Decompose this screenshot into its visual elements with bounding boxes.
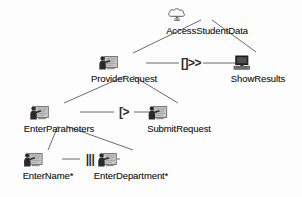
task-node-provide-request[interactable]: ProvideRequest: [91, 55, 157, 84]
task-node-enter-name[interactable]: EnterName*: [23, 152, 74, 181]
task-node-label: ShowResults: [231, 73, 285, 84]
user-interaction-icon: [29, 105, 51, 122]
temporal-operator-interleaving[interactable]: |||: [84, 153, 97, 165]
task-node-enter-department[interactable]: EnterDepartment*: [94, 152, 168, 181]
task-node-label: EnterName*: [23, 170, 74, 181]
task-node-submit-request[interactable]: SubmitRequest: [147, 105, 211, 134]
task-node-label: EnterParameters: [24, 123, 94, 134]
task-node-label: AccessStudentData: [166, 25, 248, 36]
user-interaction-icon: [23, 152, 45, 169]
cloud-icon: [166, 7, 188, 24]
user-interaction-icon: [147, 105, 169, 122]
temporal-operator-enabling[interactable]: []>>: [179, 57, 203, 69]
task-node-label: SubmitRequest: [147, 123, 211, 134]
user-interaction-icon: [98, 55, 120, 72]
task-node-access-student-data[interactable]: AccessStudentData: [166, 7, 248, 36]
task-node-label: EnterDepartment*: [94, 170, 168, 181]
ctt-diagram-canvas: AccessStudentDataProvideRequestShowResul…: [0, 0, 302, 197]
user-interaction-icon: [97, 152, 119, 169]
monitor-icon: [231, 55, 253, 72]
temporal-operator-disabling[interactable]: [>: [117, 106, 131, 118]
task-node-show-results[interactable]: ShowResults: [231, 55, 285, 84]
task-node-label: ProvideRequest: [91, 73, 157, 84]
task-node-enter-parameters[interactable]: EnterParameters: [24, 105, 94, 134]
